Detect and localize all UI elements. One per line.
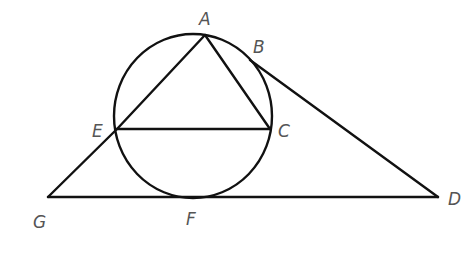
label-d: D (448, 189, 461, 209)
label-c: C (278, 121, 290, 141)
geometry-diagram: A B C E F G D (0, 0, 474, 269)
circle (114, 34, 272, 198)
label-e: E (92, 121, 103, 141)
label-b: B (253, 37, 265, 57)
label-g: G (33, 212, 46, 232)
label-a: A (198, 9, 211, 29)
segment-ae (117, 35, 205, 129)
segment-ge (48, 129, 117, 197)
label-f: F (186, 209, 196, 229)
